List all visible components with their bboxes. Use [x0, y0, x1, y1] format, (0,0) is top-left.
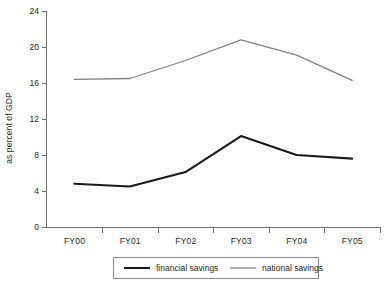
x-tick-label-fy01: FY01 [120, 236, 141, 246]
y-tick-label-16: 16 [30, 78, 40, 88]
y-tick-label-4: 4 [34, 186, 39, 196]
chart-container: as percent of GDP 24 20 16 12 8 4 0 [0, 0, 388, 288]
y-tick-label-24: 24 [30, 6, 40, 16]
x-tick-label-fy05: FY05 [342, 236, 363, 246]
x-tick-label-fy00: FY00 [64, 236, 85, 246]
y-axis-title: as percent of GDP [4, 92, 14, 164]
legend-label-national-savings: national savings [262, 263, 323, 273]
y-tick-label-20: 20 [30, 42, 40, 52]
chart-legend: financial savings national savings [114, 258, 323, 279]
legend-label-financial-savings: financial savings [156, 263, 218, 273]
savings-line-chart: as percent of GDP 24 20 16 12 8 4 0 [0, 0, 388, 288]
x-tick-label-fy03: FY03 [231, 236, 252, 246]
y-tick-label-12: 12 [30, 114, 40, 124]
series-line-financial-savings [74, 136, 352, 186]
y-axis-tickmarks [42, 11, 47, 227]
y-tick-label-0: 0 [34, 222, 39, 232]
y-tick-label-8: 8 [34, 150, 39, 160]
x-tick-label-fy02: FY02 [175, 236, 196, 246]
series-line-national-savings [74, 40, 352, 81]
x-tick-label-fy04: FY04 [286, 236, 307, 246]
